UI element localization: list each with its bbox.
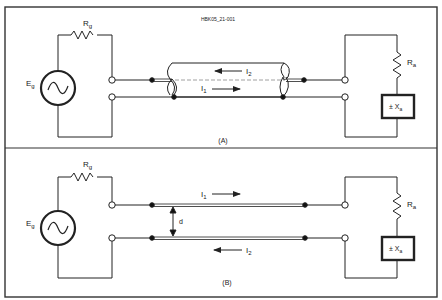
i2-label-b: I2	[246, 246, 252, 256]
terminal-b-load-top	[342, 202, 348, 208]
i2-label-a: I2	[246, 67, 252, 77]
transmission-line-diagram: HBK05_21-001	[0, 0, 442, 300]
panel-b	[41, 173, 414, 278]
i1-label-b: I1	[201, 190, 207, 200]
ra-label-a: Ra	[407, 58, 417, 68]
terminal-b-load-bottom	[342, 235, 348, 241]
figure-border	[5, 7, 437, 297]
panel-label-b: (B)	[222, 279, 231, 287]
i1-label-a: I1	[201, 84, 207, 94]
eg-label-b: Eg	[26, 219, 35, 229]
terminal-b-bottom	[109, 235, 115, 241]
load-resistor-b	[393, 193, 401, 219]
eg-label-a: Eg	[26, 79, 35, 89]
figure-id: HBK05_21-001	[201, 16, 235, 22]
coax-cable	[167, 63, 289, 97]
rg-label-b: Rg	[83, 160, 92, 170]
ra-label-b: Ra	[407, 200, 417, 210]
load-resistor-a	[393, 52, 401, 78]
panel-label-a: (A)	[218, 137, 227, 145]
source-resistor-b	[71, 173, 93, 181]
panel-a	[41, 31, 414, 137]
terminal-b-top	[109, 202, 115, 208]
rg-label-a: Rg	[83, 19, 92, 29]
parallel-wire-line	[152, 204, 305, 240]
source-resistor-a	[71, 31, 93, 39]
terminal-a-load-top	[342, 77, 348, 83]
terminal-a-top	[109, 77, 115, 83]
spacing-label: d	[179, 218, 183, 225]
terminal-a-load-bottom	[342, 94, 348, 100]
terminal-a-bottom	[109, 94, 115, 100]
